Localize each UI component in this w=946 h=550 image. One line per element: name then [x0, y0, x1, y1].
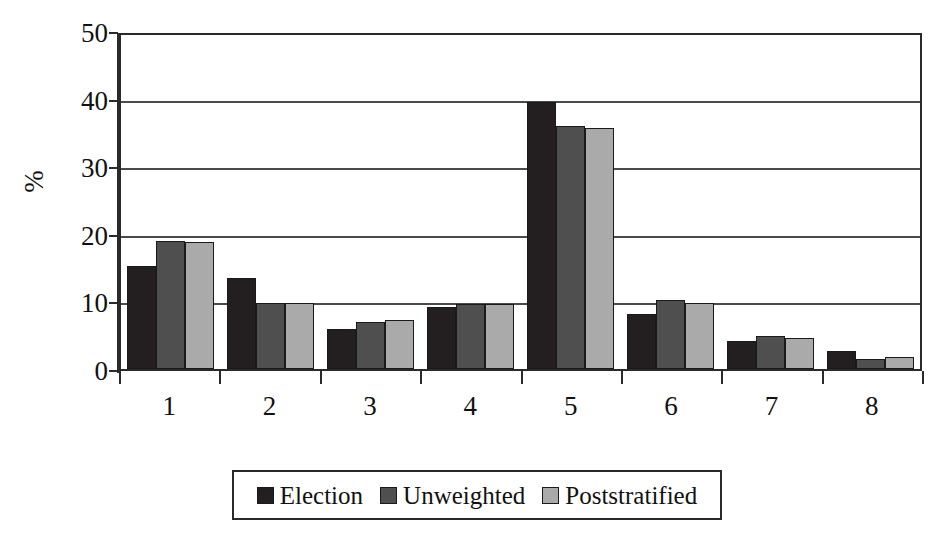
bar-group — [620, 35, 720, 369]
y-axis-tick-label: 40 — [56, 87, 108, 114]
bar-groups — [121, 35, 920, 369]
bar-chart: % 01020304050 12345678 ElectionUnweighte… — [0, 0, 946, 550]
bar — [127, 266, 156, 369]
x-axis-tick-mark — [320, 371, 322, 384]
bar — [585, 128, 614, 369]
bar-group — [121, 35, 221, 369]
legend-swatch-icon — [380, 487, 397, 504]
bar-group — [321, 35, 421, 369]
y-axis-tick-label: 0 — [56, 358, 108, 385]
bar — [785, 338, 814, 369]
legend-item: Election — [257, 483, 363, 508]
bar — [627, 314, 656, 369]
legend-label: Unweighted — [403, 483, 525, 508]
legend-label: Election — [280, 483, 363, 508]
x-axis-tick-label: 8 — [822, 392, 922, 432]
bar — [727, 341, 756, 369]
x-axis-tick-mark — [219, 371, 221, 384]
bar-group — [421, 35, 521, 369]
y-axis-title: % — [21, 162, 48, 202]
x-axis-tick-label: 4 — [420, 392, 520, 432]
y-axis-tick-labels: 01020304050 — [56, 33, 108, 371]
bar — [156, 241, 185, 369]
x-axis-tick-marks — [119, 371, 922, 385]
bar — [356, 322, 385, 369]
legend-swatch-icon — [257, 487, 274, 504]
bar — [227, 278, 256, 369]
y-axis-tick-label: 10 — [56, 290, 108, 317]
x-axis-tick-labels: 12345678 — [119, 392, 922, 432]
bar — [656, 300, 685, 369]
legend: ElectionUnweightedPoststratified — [232, 470, 722, 520]
bar — [327, 329, 356, 369]
x-axis-tick-label: 2 — [219, 392, 319, 432]
bar-group — [221, 35, 321, 369]
x-axis-tick-label: 6 — [621, 392, 721, 432]
x-axis-tick-label: 3 — [320, 392, 420, 432]
plot-area — [119, 33, 922, 371]
bar-group — [720, 35, 820, 369]
bar — [427, 307, 456, 369]
bar — [456, 304, 485, 369]
bar — [756, 336, 785, 369]
bar-group — [820, 35, 920, 369]
bar — [485, 304, 514, 369]
x-axis-tick-mark — [922, 371, 924, 384]
x-axis-tick-mark — [521, 371, 523, 384]
bar — [285, 303, 314, 369]
x-axis-tick-mark — [822, 371, 824, 384]
bar — [556, 126, 585, 369]
y-axis-tick-label: 20 — [56, 222, 108, 249]
legend-swatch-icon — [542, 487, 559, 504]
x-axis-tick-mark — [621, 371, 623, 384]
y-axis-tick-label: 50 — [56, 20, 108, 47]
bar — [856, 359, 885, 369]
legend-item: Unweighted — [380, 483, 525, 508]
legend-label: Poststratified — [565, 483, 697, 508]
x-axis-tick-mark — [420, 371, 422, 384]
bar — [685, 303, 714, 369]
bar — [827, 351, 856, 369]
bar — [185, 242, 214, 369]
x-axis-tick-mark — [119, 371, 121, 384]
bar — [885, 357, 914, 369]
bar-group — [521, 35, 621, 369]
x-axis-tick-label: 1 — [119, 392, 219, 432]
x-axis-tick-label: 5 — [521, 392, 621, 432]
legend-item: Poststratified — [542, 483, 697, 508]
x-axis-tick-mark — [721, 371, 723, 384]
bar — [256, 303, 285, 369]
bar — [527, 102, 556, 369]
y-axis-tick-label: 30 — [56, 155, 108, 182]
x-axis-tick-label: 7 — [721, 392, 821, 432]
bar — [385, 320, 414, 369]
